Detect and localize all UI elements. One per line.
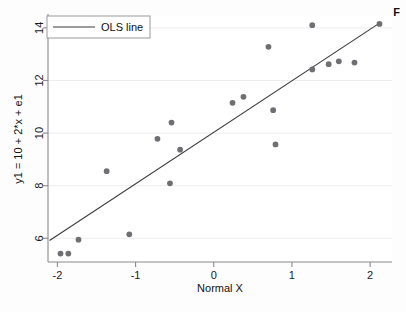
scatter-point <box>241 94 247 100</box>
scatter-point <box>58 251 64 257</box>
scatter-point <box>76 237 82 243</box>
x-tick-label: -1 <box>131 269 141 281</box>
y-tick-label: 8 <box>33 183 45 189</box>
y-tick-label: 6 <box>33 235 45 241</box>
scatter-plot: 68101214-2-1012Normal Xy1 = 10 + 2*x + e… <box>0 0 406 312</box>
y-tick-label: 10 <box>33 127 45 139</box>
x-tick-label: 1 <box>289 269 295 281</box>
scatter-point <box>177 147 183 153</box>
x-tick-label: 0 <box>211 269 217 281</box>
scatter-point <box>377 21 383 27</box>
legend-label-ols-line: OLS line <box>101 21 143 33</box>
scatter-point <box>126 231 132 237</box>
scatter-point <box>326 61 332 67</box>
y-tick-label: 14 <box>33 22 45 34</box>
scatter-point <box>230 100 236 106</box>
scatter-point <box>104 168 110 174</box>
x-axis-title: Normal X <box>197 282 244 294</box>
scatter-point <box>309 22 315 28</box>
x-tick-label: -2 <box>52 269 62 281</box>
scatter-point <box>65 251 71 257</box>
scatter-point <box>352 60 358 66</box>
scatter-point <box>270 107 276 113</box>
figure-container: F 68101214-2-1012Normal Xy1 = 10 + 2*x +… <box>0 0 406 312</box>
x-tick-label: 2 <box>367 269 373 281</box>
plot-area-background <box>48 16 392 262</box>
scatter-point <box>309 67 315 73</box>
scatter-point <box>266 44 272 50</box>
scatter-point <box>169 120 175 126</box>
scatter-point <box>273 142 279 148</box>
scatter-point <box>336 58 342 64</box>
y-tick-label: 12 <box>33 74 45 86</box>
scatter-point <box>167 180 173 186</box>
y-axis-title: y1 = 10 + 2*x + e1 <box>12 94 24 184</box>
scatter-point <box>155 136 161 142</box>
